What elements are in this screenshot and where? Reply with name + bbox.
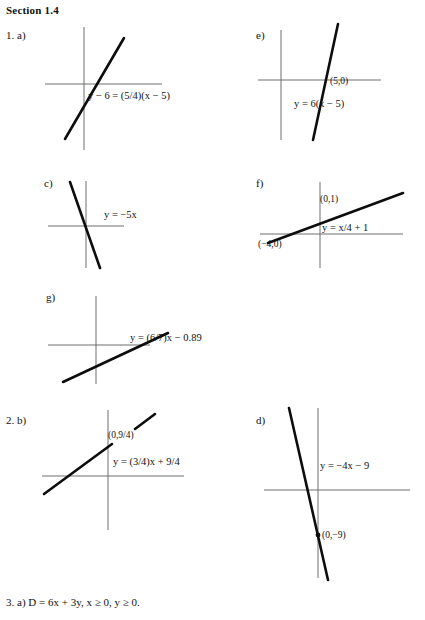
- equation-label-1c: y = −5x: [104, 209, 137, 220]
- problem-label-2b: 2. b): [6, 414, 26, 426]
- point-label-0-neg9: (0,−9): [322, 530, 346, 540]
- point-label-0-9over4: (0,9/4): [108, 430, 134, 440]
- problem-label-1a: 1. a): [6, 29, 26, 41]
- point-label-0-1: (0,1): [320, 194, 338, 204]
- line-plot: [289, 408, 328, 580]
- equation-label-2d: y = −4x − 9: [320, 460, 369, 471]
- graph-2b: [40, 408, 190, 533]
- equation-label-1f: y = x/4 + 1: [322, 222, 368, 233]
- point-marker-0-neg9: [316, 533, 321, 538]
- worksheet-page: Section 1.4 1. a) y − 6 = (5/4)(x − 5) e…: [0, 0, 425, 620]
- equation-label-1g: y = (6/7)x − 0.89: [130, 332, 202, 343]
- graph-1e: [255, 22, 387, 150]
- line-plot-upper: [135, 414, 155, 429]
- point-label-neg4-0: (−4,0): [258, 239, 282, 249]
- graph-1c: [46, 176, 146, 274]
- equation-label-1e: y = 6(x − 5): [294, 98, 344, 109]
- line-plot: [70, 182, 100, 268]
- line-plot-lower: [44, 444, 112, 494]
- page-title: Section 1.4: [6, 4, 59, 16]
- equation-label-1a: y − 6 = (5/4)(x − 5): [88, 90, 170, 101]
- graph-2d: [262, 406, 414, 582]
- point-label-5-0: (5,0): [330, 76, 348, 86]
- answer-3a: 3. a) D = 6x + 3y, x ≥ 0, y ≥ 0.: [6, 596, 140, 608]
- equation-label-2b: y = (3/4)x + 9/4: [113, 456, 180, 467]
- line-plot: [65, 38, 124, 139]
- graph-1a: [40, 22, 175, 152]
